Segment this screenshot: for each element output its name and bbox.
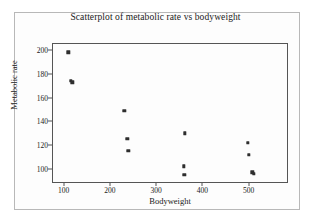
- x-tick-label: 300: [150, 186, 161, 195]
- y-tick-label: 120: [37, 141, 48, 150]
- x-tick-label: 500: [243, 186, 254, 195]
- x-tick-label: 100: [58, 186, 69, 195]
- y-axis-label: Metabolic rate: [9, 45, 19, 125]
- x-tick-label: 400: [197, 186, 208, 195]
- scatter-point: [183, 131, 186, 134]
- x-axis-label: Bodyweight: [52, 196, 288, 206]
- scatter-point: [66, 51, 69, 54]
- scatter-point: [127, 149, 130, 152]
- scatter-point: [183, 173, 186, 176]
- scatter-point: [252, 172, 255, 175]
- scatter-point: [182, 165, 185, 168]
- scatter-point: [247, 153, 250, 156]
- y-tick-label: 100: [37, 164, 48, 173]
- scatter-point: [71, 80, 74, 83]
- scatter-point: [246, 141, 249, 144]
- y-tick-label: 160: [37, 93, 48, 102]
- y-axis-tick-labels: 100120140160180200: [22, 0, 48, 224]
- y-tick-label: 200: [37, 46, 48, 55]
- x-tick-label: 200: [104, 186, 115, 195]
- scatter-plot-area: [52, 43, 288, 183]
- y-tick-label: 180: [37, 69, 48, 78]
- scatter-point: [122, 109, 125, 112]
- scatter-point: [126, 137, 129, 140]
- y-tick-label: 140: [37, 117, 48, 126]
